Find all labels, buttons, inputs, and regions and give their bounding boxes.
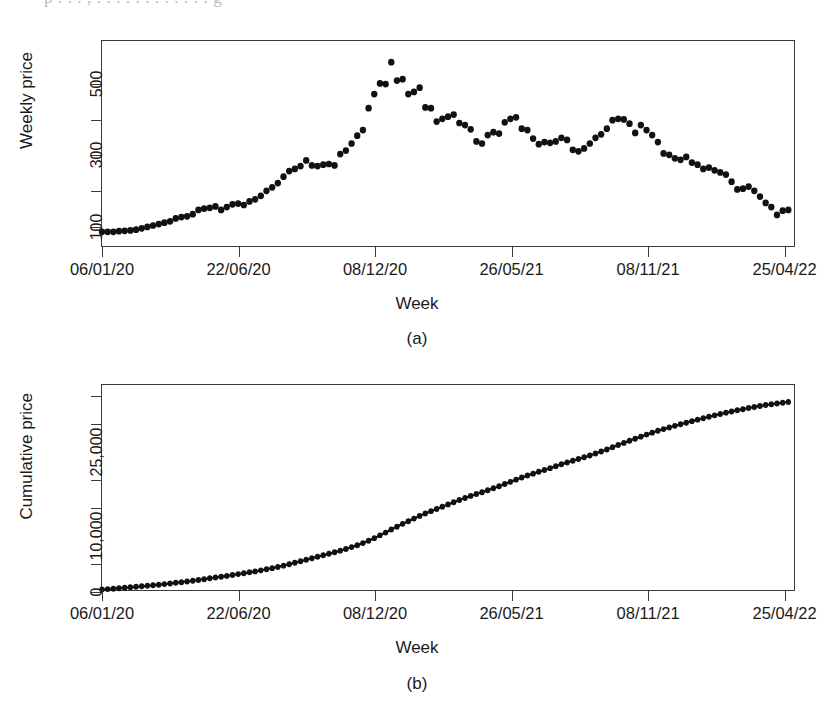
data-point [559, 461, 564, 467]
data-point [728, 178, 734, 185]
data-point [434, 506, 439, 512]
data-point [343, 546, 348, 552]
x-axis-tick [102, 246, 103, 257]
x-axis-tick-label: 06/01/20 [70, 261, 134, 278]
data-point [235, 571, 240, 577]
data-point [269, 184, 275, 191]
panel-a-plot-inner [102, 41, 794, 246]
data-point [564, 137, 570, 144]
data-point [332, 549, 337, 555]
data-point [712, 412, 717, 418]
data-point [706, 414, 711, 420]
data-point [541, 139, 547, 146]
y-axis-tick-label-text: 100 [89, 213, 105, 240]
data-point [530, 135, 536, 142]
data-point [774, 212, 780, 219]
x-axis-tick [648, 590, 649, 601]
data-point [326, 161, 332, 168]
data-point [405, 91, 411, 98]
x-axis-tick-label: 25/04/22 [752, 261, 816, 278]
panel-b-x-axis-title: Week [0, 639, 834, 656]
data-point [468, 493, 473, 499]
data-point [558, 134, 564, 141]
data-point [406, 518, 411, 524]
panel-b-plot-inner [102, 385, 794, 590]
data-point [615, 442, 620, 448]
data-point [457, 497, 462, 503]
data-point [570, 458, 575, 464]
data-point [740, 406, 745, 412]
x-axis-tick-label: 08/11/21 [617, 605, 680, 622]
data-point [315, 554, 320, 560]
x-axis-tick-label: 08/11/21 [617, 261, 680, 278]
y-axis-tick [91, 191, 102, 192]
data-point [751, 187, 757, 194]
data-point [184, 579, 189, 585]
data-point [139, 225, 145, 232]
data-point [445, 113, 451, 120]
x-axis-tick [512, 246, 513, 257]
data-point [428, 508, 433, 514]
data-point [269, 565, 274, 571]
data-point [655, 428, 660, 434]
y-axis-tick-label: 10,000 [81, 536, 97, 585]
data-point [485, 132, 491, 139]
data-point [621, 440, 626, 446]
data-point [519, 125, 525, 132]
data-point [365, 105, 371, 112]
data-point [689, 418, 694, 424]
data-point [377, 80, 383, 87]
data-point [626, 120, 632, 127]
data-point [672, 155, 678, 162]
data-point [411, 89, 417, 96]
data-point [655, 139, 661, 146]
data-point [451, 499, 456, 505]
x-axis-tick-label: 26/05/21 [479, 261, 543, 278]
data-point [321, 552, 326, 558]
data-point [423, 511, 428, 517]
y-axis-tick-label: 300 [81, 155, 97, 182]
data-point [133, 584, 138, 590]
data-point [207, 575, 212, 581]
panel-b-y-axis-title: Cumulative price [18, 393, 35, 520]
data-point [502, 119, 508, 126]
figure-panel-a: Weekly price 100300500 06/01/2022/06/200… [0, 0, 834, 360]
data-point [337, 151, 343, 158]
data-point [632, 130, 638, 137]
data-point [286, 168, 292, 175]
data-point [672, 423, 677, 429]
data-point [598, 131, 604, 138]
data-point [570, 146, 576, 153]
figure-panel-b: Cumulative price 010,00025,000 06/01/202… [0, 360, 834, 718]
data-point [723, 410, 728, 416]
x-axis-tick [785, 246, 786, 257]
data-point [530, 471, 535, 477]
data-point [553, 463, 558, 469]
data-point [643, 127, 649, 134]
data-point [519, 475, 524, 481]
data-point [121, 227, 127, 234]
data-point [479, 140, 485, 147]
x-axis-tick-label: 22/06/20 [206, 605, 270, 622]
data-point [201, 205, 207, 212]
data-point [190, 211, 196, 218]
data-point [746, 405, 751, 411]
data-point [320, 161, 326, 168]
data-point [264, 566, 269, 572]
data-point [360, 127, 366, 134]
x-axis-tick [375, 246, 376, 257]
x-axis-tick [648, 246, 649, 257]
data-point [774, 401, 779, 407]
data-point [309, 555, 314, 561]
data-point [711, 167, 717, 174]
data-point [695, 417, 700, 423]
panel-a-scatter-series [102, 41, 794, 246]
data-point [575, 148, 581, 155]
data-point [667, 424, 672, 430]
data-point [156, 582, 161, 588]
data-point [297, 163, 303, 170]
panel-a-x-axis-title: Week [0, 295, 834, 312]
data-point [422, 104, 428, 111]
panel-b-cumulative-series [102, 385, 794, 590]
data-point [218, 574, 223, 580]
